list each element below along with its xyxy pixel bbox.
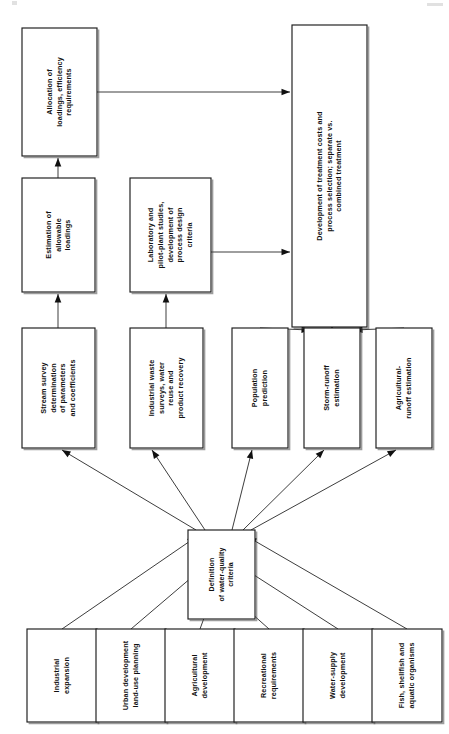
edge-definition-to-population <box>232 450 253 530</box>
edge-line <box>152 450 205 530</box>
edge-stream_survey-to-estimation <box>55 294 62 328</box>
edge-fish_shellfish-to-definition <box>248 537 407 629</box>
node-label: Agriculturaldevelopment <box>190 652 209 698</box>
arrowhead-icon <box>55 158 62 167</box>
edge-line <box>243 450 324 530</box>
edge-definition-to-agri_runoff <box>251 450 396 530</box>
edge-line <box>251 450 396 530</box>
arrowhead-icon <box>55 294 62 303</box>
scan-artifact-top-right <box>427 3 443 6</box>
node-label: Recreationalrequirements <box>259 652 278 699</box>
node-estimation: Estimation ofallowableloadings <box>22 178 97 294</box>
edge-definition-to-stream_survey <box>62 450 196 530</box>
node-storm_runoff: Storm-runoffestimation <box>304 328 362 450</box>
arrowhead-icon <box>387 450 396 457</box>
edge-definition-to-industrial_waste <box>152 450 205 530</box>
edge-line <box>62 537 196 629</box>
node-population: Populationprediction <box>232 328 290 450</box>
scan-artifact-top-left <box>12 1 17 5</box>
edge-estimation-to-allocation <box>55 158 62 178</box>
flow-diagram: Allocation ofloadings, efficiencyrequire… <box>0 0 449 734</box>
edge-industrial_expansion-to-definition <box>62 537 196 629</box>
node-stream_survey: Stream surveydeterminationof parametersa… <box>22 328 97 450</box>
node-recreational: Recreationalrequirements <box>234 629 306 724</box>
arrowhead-icon <box>152 450 159 459</box>
node-label: Agricultural-runoff estimation <box>394 357 413 418</box>
node-industrial_waste: Industrial wastesurveys, waterreuse andp… <box>130 328 205 450</box>
node-definition: Definitionof water-qualitycriteria <box>188 530 257 621</box>
arrowhead-icon <box>62 450 71 457</box>
node-water_supply: Water-supplydevelopment <box>303 629 375 724</box>
node-fish_shellfish: Fish, shellfish andaquatic organisms <box>372 629 444 724</box>
edge-laboratory-to-treatment <box>211 249 290 256</box>
edge-line <box>62 450 196 530</box>
node-laboratory: Laboratory andpilot-plant studies,develo… <box>130 178 213 294</box>
node-label: Storm-runoffestimation <box>322 365 341 411</box>
edge-allocation-to-treatment <box>97 89 290 96</box>
arrowhead-icon <box>163 294 170 303</box>
arrowhead-icon <box>247 450 253 459</box>
node-allocation: Allocation ofloadings, efficiencyrequire… <box>22 28 99 158</box>
node-agri_runoff: Agricultural-runoff estimation <box>376 328 434 450</box>
node-label: Industrialexpansion <box>52 657 71 694</box>
edge-definition-to-storm_runoff <box>243 450 324 530</box>
arrowhead-icon <box>282 249 291 256</box>
node-label: Stream surveydeterminationof parametersa… <box>39 359 78 416</box>
node-layer: Allocation ofloadings, efficiencyrequire… <box>22 25 444 724</box>
edge-line <box>232 450 252 530</box>
edge-industrial_waste-to-laboratory <box>163 294 170 328</box>
arrowhead-icon <box>282 89 291 96</box>
node-agricultural_development: Agriculturaldevelopment <box>165 629 237 724</box>
node-label: Urban developmentland-use planning <box>121 640 140 710</box>
node-label: Water-supplydevelopment <box>328 652 347 699</box>
node-label: Populationprediction <box>250 369 269 408</box>
node-treatment: Development of treatment costs andproces… <box>292 25 369 329</box>
node-industrial_expansion: Industrialexpansion <box>27 629 99 724</box>
figure-canvas: Allocation ofloadings, efficiencyrequire… <box>0 0 449 734</box>
edge-line <box>248 537 407 629</box>
node-urban_development: Urban developmentland-use planning <box>96 629 168 724</box>
node-label: Fish, shellfish andaquatic organisms <box>397 642 416 708</box>
